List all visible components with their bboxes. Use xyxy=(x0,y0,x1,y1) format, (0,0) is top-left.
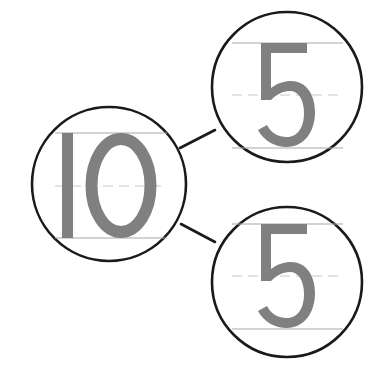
part-circle-bottom xyxy=(212,207,362,357)
connector-top xyxy=(180,130,215,148)
whole-circle xyxy=(32,107,186,261)
connector-bottom xyxy=(181,224,215,242)
number-bond-svg xyxy=(0,0,385,370)
part-circle-top xyxy=(212,12,362,162)
digit-1-stroke xyxy=(62,133,73,238)
